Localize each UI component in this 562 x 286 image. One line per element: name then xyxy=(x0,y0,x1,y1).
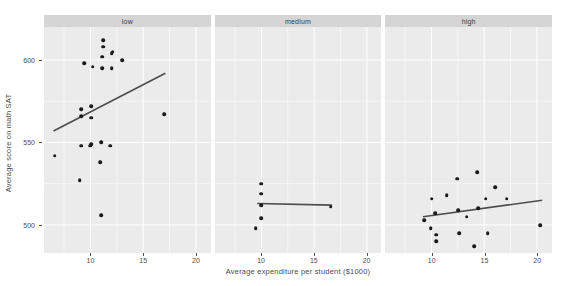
data-point xyxy=(254,226,258,230)
facet-strip-low: low xyxy=(44,15,211,27)
data-point xyxy=(90,142,94,146)
plot-area-low xyxy=(44,27,211,253)
data-point xyxy=(486,231,490,235)
x-tick-mark xyxy=(537,253,538,256)
data-point xyxy=(110,66,114,70)
data-point xyxy=(329,205,333,209)
data-point xyxy=(423,218,427,222)
data-point xyxy=(101,38,105,42)
x-axis-title: Average expenditure per student ($1000) xyxy=(44,264,552,278)
data-point xyxy=(434,233,438,237)
data-point xyxy=(457,231,461,235)
facet-plot-svg xyxy=(215,27,382,253)
facet-plot-svg xyxy=(385,27,552,253)
plot-area-medium xyxy=(215,27,382,253)
data-point xyxy=(493,185,497,189)
data-point xyxy=(465,215,469,219)
data-point xyxy=(539,223,543,227)
y-axis: 500550600 xyxy=(0,0,42,286)
data-point xyxy=(455,177,459,181)
x-tick-mark xyxy=(432,253,433,256)
facet-panels: low medium high xyxy=(44,15,552,253)
x-tick-mark xyxy=(485,253,486,256)
plot-area-high xyxy=(385,27,552,253)
data-point xyxy=(259,182,263,186)
x-tick-label: 10 xyxy=(428,257,436,264)
facet-strip-high: high xyxy=(385,15,552,27)
data-point xyxy=(101,45,105,49)
data-point xyxy=(90,116,94,120)
y-tick-mark xyxy=(39,225,42,226)
data-point xyxy=(445,193,449,197)
regression-line xyxy=(53,73,165,131)
y-tick-label: 500 xyxy=(23,221,35,228)
x-tick-mark xyxy=(261,253,262,256)
facet-strip-medium: medium xyxy=(215,15,382,27)
x-tick-label: 15 xyxy=(481,257,489,264)
x-tick-label: 20 xyxy=(363,257,371,264)
x-tick-label: 15 xyxy=(310,257,318,264)
data-point xyxy=(79,144,83,148)
y-tick-label: 550 xyxy=(23,139,35,146)
data-point xyxy=(99,213,103,217)
data-point xyxy=(259,192,263,196)
data-point xyxy=(433,212,437,216)
data-point xyxy=(472,245,476,249)
regression-line xyxy=(423,200,542,216)
x-tick-label: 10 xyxy=(257,257,265,264)
data-point xyxy=(505,197,509,201)
facet-plot-svg xyxy=(44,27,211,253)
data-point xyxy=(259,203,263,207)
data-point xyxy=(98,160,102,164)
y-tick-mark xyxy=(39,60,42,61)
data-point xyxy=(109,144,113,148)
x-tick-label: 20 xyxy=(192,257,200,264)
x-tick-mark xyxy=(143,253,144,256)
data-point xyxy=(79,114,83,118)
data-point xyxy=(120,58,124,62)
x-tick-label: 20 xyxy=(533,257,541,264)
data-point xyxy=(82,61,86,65)
data-point xyxy=(484,197,488,201)
x-tick-label: 10 xyxy=(87,257,95,264)
data-point xyxy=(53,154,57,158)
x-tick-mark xyxy=(367,253,368,256)
data-point xyxy=(456,208,460,212)
regression-line xyxy=(257,204,332,206)
chart-figure: Average score on math SAT 500550600 low … xyxy=(0,0,562,286)
data-point xyxy=(162,113,166,117)
facet-panel-medium: medium xyxy=(215,15,382,253)
y-tick-mark xyxy=(39,142,42,143)
x-tick-mark xyxy=(90,253,91,256)
data-point xyxy=(100,55,104,59)
data-point xyxy=(79,108,83,112)
y-tick-label: 600 xyxy=(23,56,35,63)
data-point xyxy=(434,240,438,244)
data-point xyxy=(429,226,433,230)
x-tick-mark xyxy=(196,253,197,256)
x-tick-mark xyxy=(314,253,315,256)
data-point xyxy=(111,50,115,54)
data-point xyxy=(78,179,82,183)
data-point xyxy=(99,141,103,145)
data-point xyxy=(259,217,263,221)
data-point xyxy=(475,170,479,174)
facet-panel-high: high xyxy=(385,15,552,253)
data-point xyxy=(100,66,104,70)
data-point xyxy=(91,65,95,69)
data-point xyxy=(476,207,480,211)
facet-panel-low: low xyxy=(44,15,211,253)
data-point xyxy=(430,197,434,201)
data-point xyxy=(90,104,94,108)
x-tick-label: 15 xyxy=(139,257,147,264)
